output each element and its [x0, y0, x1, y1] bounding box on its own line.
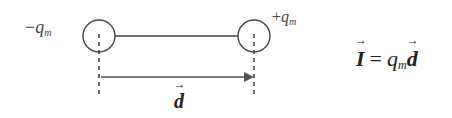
negative-charge-label: −qm: [25, 17, 51, 38]
positive-charge-label: +qm: [272, 8, 296, 26]
equals-sign: =: [370, 46, 382, 71]
dipole-moment-formula: I=qmd: [356, 46, 418, 72]
negative-sign: −: [25, 17, 35, 37]
vector-I: I: [356, 46, 365, 72]
charge-symbol: q: [35, 17, 44, 37]
charge-subscript: m: [44, 27, 51, 38]
formula-vector-d: d: [407, 46, 418, 72]
separation-arrow-head-icon: [244, 72, 254, 82]
formula-charge-subscript: m: [398, 58, 407, 72]
positive-sign: +: [272, 8, 281, 25]
separation-vector-label: d: [174, 90, 184, 113]
formula-charge-symbol: q: [387, 46, 398, 71]
charge-symbol: q: [281, 8, 289, 25]
vector-d: d: [174, 90, 184, 113]
charge-subscript: m: [289, 16, 296, 27]
